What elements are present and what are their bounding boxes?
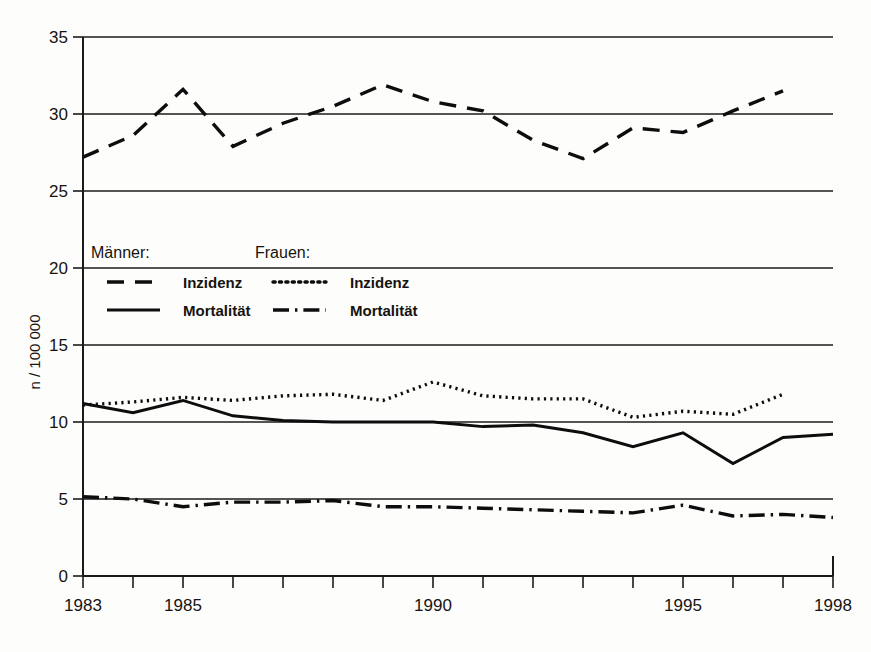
series-frauen-mortalitaet [83, 497, 833, 518]
series-maenner-inzidenz [83, 85, 783, 159]
x-tick-labels: 1983 1985 1990 1995 1998 [64, 596, 852, 615]
chart-page: 35 30 25 20 15 10 5 0 n / 100 000 [0, 0, 871, 652]
y-tick-label: 15 [49, 336, 68, 355]
legend-label-maenner-mortalitaet: Mortalität [183, 302, 251, 319]
y-tick-label: 0 [59, 567, 68, 586]
x-tick-marks [83, 576, 833, 588]
y-tick-label: 30 [49, 105, 68, 124]
x-tick-label: 1998 [814, 596, 852, 615]
x-tick-label: 1995 [664, 596, 702, 615]
legend-item-maenner-mortalitaet[interactable]: Mortalität [107, 302, 251, 319]
y-tick-marks [73, 37, 83, 576]
legend-heading-maenner: Männer: [91, 244, 150, 261]
legend-item-frauen-inzidenz[interactable]: Inzidenz [273, 274, 409, 291]
legend-item-maenner-inzidenz[interactable]: Inzidenz [107, 274, 242, 291]
y-tick-label: 10 [49, 413, 68, 432]
series-maenner-mortalitaet [83, 400, 833, 463]
y-tick-label: 20 [49, 259, 68, 278]
legend-label-frauen-inzidenz: Inzidenz [350, 274, 409, 291]
y-tick-label: 35 [49, 28, 68, 47]
y-axis-title: n / 100 000 [26, 314, 43, 389]
line-chart: 35 30 25 20 15 10 5 0 n / 100 000 [0, 0, 871, 652]
legend-label-maenner-inzidenz: Inzidenz [183, 274, 242, 291]
gridlines [83, 37, 833, 499]
y-tick-label: 5 [59, 490, 68, 509]
legend: Männer: Frauen: Inzidenz Mortalität Inzi… [91, 244, 418, 319]
legend-label-frauen-mortalitaet: Mortalität [350, 302, 418, 319]
x-tick-label: 1985 [164, 596, 202, 615]
x-tick-label: 1990 [414, 596, 452, 615]
y-tick-label: 25 [49, 182, 68, 201]
series-frauen-inzidenz [83, 382, 783, 417]
y-tick-labels: 35 30 25 20 15 10 5 0 [49, 28, 68, 586]
legend-heading-frauen: Frauen: [255, 244, 310, 261]
x-tick-label: 1983 [64, 596, 102, 615]
legend-item-frauen-mortalitaet[interactable]: Mortalität [273, 302, 418, 319]
